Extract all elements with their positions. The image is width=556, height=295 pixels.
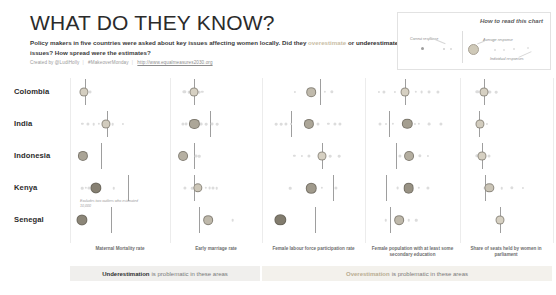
average-response-dot — [403, 183, 414, 194]
average-response-dot — [317, 152, 326, 161]
individual-response-dot — [396, 187, 399, 190]
individual-response-dot — [92, 123, 95, 126]
individual-response-dot — [215, 187, 218, 190]
legend-sample-dot-2 — [450, 48, 452, 50]
correct-response-marker — [111, 207, 112, 233]
individual-response-dot — [81, 187, 84, 190]
legend-correct-dot — [421, 47, 424, 50]
kenya-outlier-note: Excludes two outliers who estimated 10,0… — [80, 199, 142, 209]
column-header: Female population with at least some sec… — [365, 246, 460, 259]
individual-response-dot — [231, 219, 234, 222]
chart-column — [460, 78, 554, 243]
subtitle-underestimate: underestimate — [356, 39, 398, 46]
column-header: Share of seats held by women in parliame… — [460, 246, 552, 259]
legend-average-dot — [468, 44, 479, 55]
column-header: Maternal Mortality rate — [70, 246, 170, 252]
average-response-dot — [306, 183, 317, 194]
correct-response-marker — [315, 207, 316, 233]
individual-response-dot — [208, 187, 211, 190]
individual-response-dot — [379, 123, 382, 126]
legend-average-label: Average response — [483, 38, 513, 42]
banner-under-strong: Underestimation — [102, 271, 149, 277]
row-label-senegal: Senegal — [14, 215, 44, 224]
correct-response-marker — [101, 143, 102, 169]
individual-response-dot — [89, 91, 92, 94]
individual-response-dot — [385, 123, 387, 125]
individual-response-dot — [384, 219, 387, 222]
legend-individual-dot-1 — [494, 49, 496, 51]
header: WHAT DO THEY KNOW? Policy makers in five… — [30, 12, 400, 57]
row-label-india: India — [14, 119, 32, 128]
legend-box: How to read this chart Correct response … — [397, 12, 551, 70]
credit-divider-2: | — [132, 60, 133, 65]
correct-response-marker — [390, 207, 391, 233]
average-response-dot — [203, 215, 213, 225]
individual-response-dot — [185, 123, 188, 126]
legend-leader-line-individual — [518, 51, 531, 58]
individual-response-dot — [415, 219, 418, 222]
subtitle-part-a: Policy makers in five countries were ask… — [30, 39, 308, 46]
individual-response-dot — [420, 91, 423, 94]
chart-plot-area — [0, 78, 556, 243]
legend-individual-dot-2 — [503, 49, 505, 51]
legend-title: How to read this chart — [480, 18, 543, 24]
column-header: Female labour force participation rate — [262, 246, 365, 252]
banner-underestimation: Underestimation is problematic in these … — [70, 266, 260, 281]
credits: Created by @LudiHolly| #MakeoverMonday| … — [30, 60, 216, 65]
individual-response-dot — [210, 123, 213, 126]
legend-individual-dot-3 — [513, 48, 515, 50]
legend-leader-line-average — [477, 41, 485, 45]
chart-column — [365, 78, 461, 243]
banner-over-rest: is problematic in these areas — [392, 271, 468, 277]
subtitle-part-b: or — [346, 39, 356, 46]
infographic-page: WHAT DO THEY KNOW? Policy makers in five… — [0, 0, 556, 295]
individual-response-dot — [428, 91, 431, 94]
average-response-dot — [401, 88, 410, 97]
legend-individual-dot-4 — [527, 47, 529, 49]
individual-response-dot — [495, 91, 498, 94]
average-response-dot — [394, 215, 404, 225]
correct-response-marker — [396, 143, 397, 169]
average-response-dot — [190, 88, 199, 97]
credit-author: Created by @LudiHolly — [30, 60, 79, 65]
individual-response-dot — [212, 187, 215, 190]
individual-response-dot — [198, 155, 201, 158]
correct-response-marker — [199, 207, 200, 233]
average-response-dot — [479, 88, 488, 97]
individual-response-dot — [216, 123, 219, 126]
individual-response-dot — [111, 123, 114, 126]
individual-response-dot — [275, 123, 278, 126]
individual-response-dot — [194, 155, 197, 158]
individual-response-dot — [316, 123, 319, 126]
individual-response-dot — [500, 187, 503, 190]
row-label-colombia: Colombia — [14, 87, 49, 96]
credit-link[interactable]: http://www.equalmeasures2030.org — [137, 60, 212, 65]
individual-response-dot — [338, 155, 341, 158]
individual-response-dot — [329, 155, 332, 158]
individual-response-dot — [408, 219, 411, 222]
average-response-dot — [478, 152, 487, 161]
column-header: Early marriage rate — [170, 246, 262, 252]
correct-response-marker — [386, 175, 387, 201]
credit-divider-1: | — [82, 60, 83, 65]
individual-response-dot — [112, 187, 115, 190]
average-response-dot — [404, 151, 414, 161]
average-response-dot — [496, 216, 505, 225]
row-label-kenya: Kenya — [14, 183, 37, 192]
page-title: WHAT DO THEY KNOW? — [30, 12, 400, 34]
correct-response-marker — [389, 111, 390, 137]
subtitle-part-c: issues? How spread were the estimates? — [30, 49, 151, 56]
legend-sample-dot-1 — [443, 48, 445, 50]
banner-overestimation: Overestimation is problematic in these a… — [262, 266, 552, 281]
page-subtitle: Policy makers in five countries were ask… — [30, 38, 400, 57]
banner-over-strong: Overestimation — [346, 271, 390, 277]
row-label-indonesia: Indonesia — [14, 151, 50, 160]
individual-response-dot — [487, 155, 490, 158]
correct-response-marker — [128, 175, 129, 201]
correct-response-marker — [320, 79, 321, 105]
subtitle-overestimate: overestimate — [308, 39, 346, 46]
individual-response-dot — [428, 123, 431, 126]
credit-hashtag: #MakeoverMonday — [88, 60, 129, 65]
individual-response-dot — [289, 187, 292, 190]
individual-response-dot — [199, 123, 202, 126]
